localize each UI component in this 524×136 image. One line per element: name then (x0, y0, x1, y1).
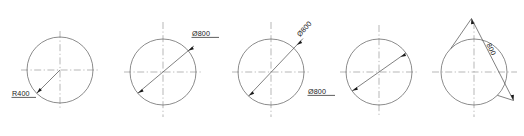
figure-2-arrowhead-start (138, 89, 144, 93)
figure-4-dimension-text: Ø800 (308, 87, 326, 96)
figure-5-extension-line-start (451, 19, 472, 49)
figure-5-text-group: 800 (484, 42, 498, 57)
figure-5-offset-dimension-line (472, 19, 514, 101)
figure-5-offset-diameter-dimension: 800 (432, 19, 517, 118)
technical-drawing: R400 Ø800 Ø800 (0, 0, 524, 136)
figure-3-dimension-text: Ø800 (295, 19, 314, 38)
figure-3-diameter-leader (249, 39, 304, 97)
figure-3-text-group: Ø800 (295, 19, 314, 38)
figure-3-arrowhead-end (297, 41, 302, 46)
figure-3-diameter-dimension-aligned: Ø800 (232, 19, 314, 117)
figure-4-diameter-dimension-lowerleft: Ø800 (308, 25, 419, 115)
figure-1-radius-dimension: R400 (12, 31, 100, 109)
figure-1-dimension-text: R400 (12, 89, 30, 98)
figure-5-dimension-text: 800 (484, 42, 498, 57)
figure-2-diameter-leader (138, 46, 194, 93)
figure-5-arrowhead-start (471, 19, 474, 25)
figure-2-dimension-text: Ø800 (192, 29, 210, 38)
cad-drawing-canvas: R400 Ø800 Ø800 (0, 0, 524, 136)
figure-3-arrowhead-start (249, 91, 254, 96)
figure-2-diameter-dimension: Ø800 (124, 22, 219, 117)
